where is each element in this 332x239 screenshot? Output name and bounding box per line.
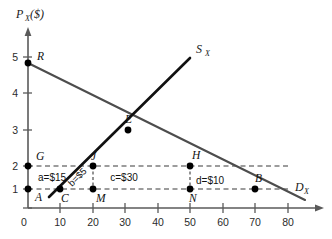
y-axis-title-base: P: [15, 7, 24, 21]
x-axis-arrowhead: [315, 205, 324, 212]
y-axis-title-unit: ($): [30, 7, 44, 21]
point-A: [25, 186, 32, 193]
y-axis-arrowhead: [25, 27, 32, 36]
x-tick-label-30: 30: [119, 216, 131, 228]
point-label-G: G: [36, 150, 45, 162]
x-tick-label-0: 0: [21, 216, 27, 228]
annotation-c: c=$30: [110, 172, 138, 183]
y-axis-tick-labels: 5 4 3 2 1: [12, 51, 18, 195]
x-tick-label-10: 10: [54, 216, 66, 228]
y-tick-label-2: 2: [12, 160, 18, 172]
x-tick-label-70: 70: [249, 216, 261, 228]
annotation-d: d=$10: [196, 175, 225, 186]
point-label-A: A: [34, 191, 43, 203]
chart-canvas: 5 4 3 2 1 0 10 20 30 40 50 60 70 80: [0, 0, 332, 239]
x-tick-label-50: 50: [184, 216, 196, 228]
x-tick-label-40: 40: [152, 216, 164, 228]
point-E: [125, 127, 132, 134]
point-label-C: C: [61, 192, 69, 204]
y-tick-label-4: 4: [12, 87, 18, 99]
supply-curve-label-subscript: X: [204, 49, 211, 58]
point-label-R: R: [36, 50, 44, 62]
point-label-H: H: [191, 149, 201, 161]
x-axis-tick-labels: 0 10 20 30 40 50 60 70 80: [21, 216, 294, 228]
point-label-E: E: [124, 113, 132, 125]
x-tick-label-60: 60: [217, 216, 229, 228]
demand-curve-label-subscript: X: [303, 187, 310, 196]
point-label-J: J: [91, 150, 97, 162]
y-tick-label-1: 1: [12, 183, 18, 195]
point-H: [187, 163, 194, 170]
y-axis-title: P X ($): [15, 7, 44, 23]
point-label-N: N: [188, 192, 198, 204]
supply-demand-diagram: 5 4 3 2 1 0 10 20 30 40 50 60 70 80: [0, 0, 332, 239]
point-J: [90, 163, 97, 170]
area-annotations-group: a=$15 b=$5 c=$30 d=$10: [38, 165, 225, 188]
x-tick-label-80: 80: [282, 216, 294, 228]
y-tick-label-5: 5: [12, 51, 18, 63]
point-B: [252, 186, 259, 193]
demand-curve-label-base: D: [294, 180, 304, 194]
point-G: [25, 163, 32, 170]
y-tick-label-3: 3: [12, 124, 18, 136]
supply-curve-label-base: S: [196, 42, 202, 56]
point-label-M: M: [95, 192, 107, 204]
annotation-a: a=$15: [38, 172, 67, 183]
x-tick-label-20: 20: [87, 216, 99, 228]
point-label-B: B: [255, 172, 262, 184]
annotation-b: b=$5: [66, 165, 89, 188]
point-R: [25, 60, 32, 67]
